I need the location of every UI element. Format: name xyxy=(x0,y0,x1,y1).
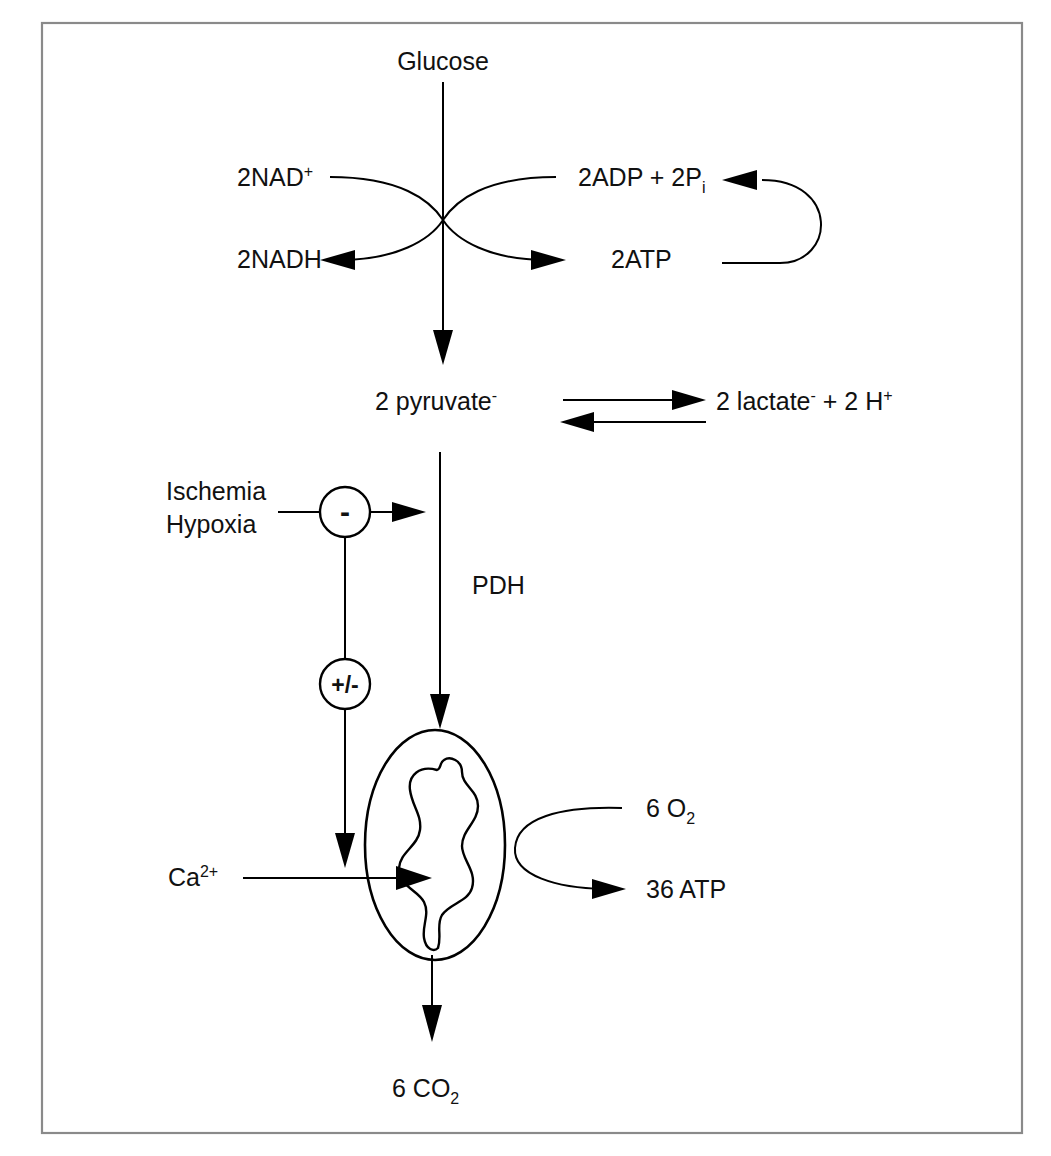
figure-root: - +/- Glucose 2NAD+ 2NADH xyxy=(0,0,1051,1156)
label-lactate: 2 lactate- + 2 H+ xyxy=(716,387,893,415)
adp-recycle-arrowhead xyxy=(722,170,757,190)
label-nad-plus: 2NAD+ xyxy=(237,163,313,191)
atp-recycle-curve xyxy=(722,180,821,263)
oxygen-to-atp-curve xyxy=(515,808,622,889)
label-pdh: PDH xyxy=(472,571,525,599)
label-glucose: Glucose xyxy=(397,47,489,75)
pdh-axis-arrowhead xyxy=(430,694,450,729)
label-atp36: 36 ATP xyxy=(646,875,726,903)
glucose-to-pyruvate-arrowhead xyxy=(433,330,453,365)
co2-output-arrowhead xyxy=(422,1005,442,1042)
label-atp: 2ATP xyxy=(611,245,672,273)
modulation-node-symbol: +/- xyxy=(331,672,358,698)
reverse-reaction-arrowhead xyxy=(560,412,594,432)
label-co2: 6 CO2 xyxy=(392,1074,459,1107)
atp36-arrowhead xyxy=(592,879,626,899)
label-calcium: Ca2+ xyxy=(168,863,218,891)
label-oxygen: 6 O2 xyxy=(646,794,695,827)
inhibition-node-symbol: - xyxy=(340,495,350,528)
label-adp: 2ADP + 2Pi xyxy=(578,163,706,196)
figure-border xyxy=(42,23,1022,1133)
label-ischemia: Ischemia xyxy=(166,477,266,505)
mitochondrion-outline xyxy=(365,730,505,960)
nad-to-atp-curve xyxy=(330,177,546,260)
forward-reaction-arrowhead xyxy=(672,390,706,410)
nadh-arrowhead xyxy=(320,250,355,270)
adp-to-nadh-curve xyxy=(340,177,556,260)
atp-arrowhead xyxy=(531,250,566,270)
mitochondrion-cristae xyxy=(399,759,478,950)
pathway-diagram: - +/- Glucose 2NAD+ 2NADH xyxy=(0,0,1051,1156)
label-nadh: 2NADH xyxy=(237,245,322,273)
modulation-to-calcium-arrowhead xyxy=(335,833,355,868)
label-hypoxia: Hypoxia xyxy=(166,510,256,538)
label-pyruvate: 2 pyruvate- xyxy=(375,387,497,415)
inhibition-to-pdh-arrowhead xyxy=(392,502,426,522)
